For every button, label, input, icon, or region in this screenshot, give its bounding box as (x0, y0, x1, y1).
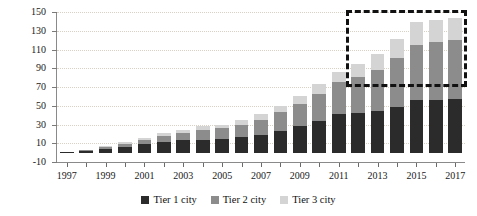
bar-segment (429, 100, 443, 153)
x-axis-tick (242, 163, 243, 167)
bar-segment (215, 128, 229, 138)
bar-segment (99, 149, 113, 153)
bar-segment (235, 137, 249, 153)
bar-group[interactable] (235, 120, 249, 153)
bar-group[interactable] (410, 22, 424, 152)
stacked-bar-chart: -101030507090110130150 19971999200120032… (0, 0, 477, 216)
bar-segment (332, 72, 346, 82)
bar-group[interactable] (371, 54, 385, 152)
bar-group[interactable] (176, 130, 190, 153)
bar-segment (332, 114, 346, 152)
bar-segment (274, 131, 288, 153)
bar-segment (254, 135, 268, 153)
bar-group[interactable] (429, 20, 443, 153)
x-axis-tick (300, 163, 301, 167)
bar-group[interactable] (293, 96, 307, 152)
y-axis-label: 70 (14, 82, 46, 92)
bar-segment (312, 84, 326, 93)
x-axis-label: 2003 (163, 170, 203, 182)
bar-segment (390, 107, 404, 153)
bar-segment (254, 120, 268, 135)
bar-segment (215, 139, 229, 153)
plot-area (57, 12, 465, 162)
x-axis-tick (455, 163, 456, 167)
bar-group[interactable] (60, 152, 74, 153)
bar-segment (60, 152, 74, 153)
bar-segment (176, 133, 190, 141)
y-axis-tick (52, 68, 57, 69)
y-axis-tick (52, 143, 57, 144)
bar-segment (448, 40, 462, 99)
bar-segment (448, 99, 462, 152)
gridline (57, 87, 465, 88)
bar-group[interactable] (138, 138, 152, 153)
bar-segment (390, 39, 404, 58)
x-axis-tick (203, 163, 204, 167)
bar-segment (312, 94, 326, 121)
x-axis-label: 2013 (358, 170, 398, 182)
legend-item[interactable]: Tier 1 city (141, 194, 196, 205)
bar-segment (371, 54, 385, 70)
y-axis-label: 90 (14, 63, 46, 73)
x-axis-label: 1997 (47, 170, 87, 182)
legend-label: Tier 2 city (223, 194, 266, 205)
chart-legend: Tier 1 cityTier 2 cityTier 3 city (0, 194, 477, 205)
bar-group[interactable] (312, 84, 326, 152)
bar-segment (410, 100, 424, 153)
x-axis-tick (106, 163, 107, 167)
x-axis-tick (86, 163, 87, 167)
gridline (57, 50, 465, 51)
bar-segment (351, 64, 365, 77)
x-axis-tick (261, 163, 262, 167)
legend-item[interactable]: Tier 3 city (280, 194, 335, 205)
y-axis-label: 110 (14, 45, 46, 55)
y-axis-label: 30 (14, 120, 46, 130)
bar-segment (351, 113, 365, 152)
bar-group[interactable] (332, 72, 346, 153)
bar-group[interactable] (79, 150, 93, 153)
x-axis-tick (339, 163, 340, 167)
y-axis-tick (52, 87, 57, 88)
x-axis-tick (358, 163, 359, 167)
y-axis-label: 10 (14, 138, 46, 148)
bar-group[interactable] (157, 133, 171, 153)
bar-segment (293, 96, 307, 104)
y-axis-tick (52, 31, 57, 32)
x-axis-label: 2009 (280, 170, 320, 182)
y-axis-tick (52, 12, 57, 13)
x-axis-tick (164, 163, 165, 167)
gridline (57, 31, 465, 32)
bar-segment (118, 147, 132, 153)
bar-group[interactable] (390, 39, 404, 152)
bar-group[interactable] (274, 106, 288, 153)
x-axis-tick (144, 163, 145, 167)
bar-group[interactable] (351, 64, 365, 153)
x-axis-tick (416, 163, 417, 167)
bar-group[interactable] (118, 142, 132, 152)
bar-group[interactable] (448, 18, 462, 153)
bar-group[interactable] (215, 125, 229, 153)
y-axis-tick (52, 162, 57, 163)
x-axis-tick (67, 163, 68, 167)
y-axis-label: 50 (14, 101, 46, 111)
legend-swatch-icon (211, 196, 219, 204)
bar-segment (351, 77, 365, 114)
y-axis-tick (52, 125, 57, 126)
bar-segment (312, 121, 326, 153)
x-axis-label: 2007 (241, 170, 281, 182)
legend-item[interactable]: Tier 2 city (211, 194, 266, 205)
bar-segment (371, 111, 385, 152)
bar-segment (176, 140, 190, 152)
bar-segment (429, 20, 443, 43)
bar-group[interactable] (196, 126, 210, 152)
x-axis-label: 2011 (319, 170, 359, 182)
legend-swatch-icon (141, 196, 149, 204)
bar-segment (410, 45, 424, 100)
x-axis-tick (222, 163, 223, 167)
x-axis-label: 2017 (435, 170, 475, 182)
x-axis-label: 2001 (124, 170, 164, 182)
bar-group[interactable] (254, 114, 268, 152)
bar-segment (429, 42, 443, 100)
x-axis-tick (397, 163, 398, 167)
bar-group[interactable] (99, 146, 113, 153)
